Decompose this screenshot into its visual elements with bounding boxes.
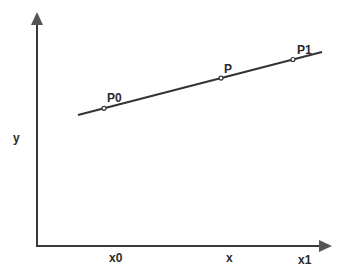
point-p1-label: P1 <box>297 43 312 57</box>
y-axis-arrow-icon <box>31 12 43 25</box>
x-axis-arrow-icon <box>319 240 332 252</box>
interpolation-diagram: P0 P P1 y x0 x x1 <box>0 0 341 274</box>
point-p-marker <box>219 76 223 80</box>
interpolation-line <box>78 52 322 115</box>
x1-tick-label: x1 <box>298 253 312 267</box>
point-p-label: P <box>224 62 232 76</box>
point-p1-marker <box>291 58 295 62</box>
y-axis-label: y <box>13 131 20 145</box>
x-tick-label: x <box>226 251 233 265</box>
point-p0-marker <box>102 106 106 110</box>
x0-tick-label: x0 <box>109 251 123 265</box>
point-p0-label: P0 <box>107 91 122 105</box>
